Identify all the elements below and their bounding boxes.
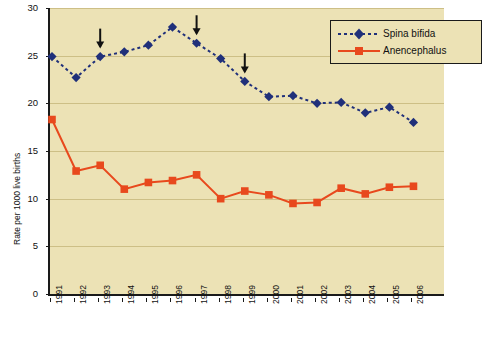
- data-point-marker: [47, 52, 56, 61]
- plot-area: Spina bifida Anencephalus: [48, 8, 444, 296]
- x-tick-mark: [219, 298, 220, 302]
- x-tick-mark: [74, 298, 75, 302]
- x-tick-mark: [98, 298, 99, 302]
- data-point-marker: [144, 41, 153, 50]
- legend-label-spina-bifida: Spina bifida: [383, 28, 435, 39]
- data-point-marker: [410, 182, 418, 190]
- data-point-marker: [361, 108, 370, 117]
- data-point-marker: [288, 91, 297, 100]
- x-tick-mark: [411, 298, 412, 302]
- x-tick-label: 2003: [343, 285, 353, 304]
- x-tick-mark: [339, 298, 340, 302]
- data-point-marker: [313, 199, 321, 207]
- x-tick-label: 1998: [223, 285, 233, 304]
- data-point-marker: [265, 191, 273, 199]
- data-point-marker: [312, 99, 321, 108]
- x-tick-mark: [315, 298, 316, 302]
- data-point-marker: [120, 47, 129, 56]
- data-point-marker: [409, 118, 418, 127]
- x-tick-label: 2002: [319, 285, 329, 304]
- x-tick-mark: [267, 298, 268, 302]
- legend-item-spina-bifida: Spina bifida: [337, 25, 475, 42]
- data-point-marker: [169, 177, 177, 185]
- legend-label-anencephalus: Anencephalus: [383, 45, 446, 56]
- data-point-marker: [289, 200, 297, 208]
- x-tick-label: 2001: [295, 285, 305, 304]
- data-point-marker: [96, 162, 104, 170]
- x-tick-label: 2004: [367, 285, 377, 304]
- x-tick-label: 1993: [102, 285, 112, 304]
- arrow-1993-annotation-arrow: [96, 29, 104, 49]
- y-axis-labels: 051015202530: [0, 0, 46, 338]
- legend: Spina bifida Anencephalus: [330, 20, 482, 64]
- x-tick-label: 1992: [78, 285, 88, 304]
- x-axis-labels: 1991199219931994199519961997199819992000…: [48, 298, 444, 338]
- y-axis-title: Rate per 1000 live births: [12, 45, 22, 245]
- x-tick-mark: [291, 298, 292, 302]
- arrow-1999-annotation-arrow: [241, 53, 249, 73]
- x-tick-mark: [170, 298, 171, 302]
- data-point-marker: [361, 190, 369, 198]
- x-tick-mark: [195, 298, 196, 302]
- x-tick-label: 2006: [415, 285, 425, 304]
- data-point-marker: [120, 185, 128, 193]
- x-tick-mark: [146, 298, 147, 302]
- series-line: [52, 120, 413, 204]
- x-tick-label: 1999: [247, 285, 257, 304]
- data-point-marker: [337, 98, 346, 107]
- x-tick-label: 1991: [54, 285, 64, 304]
- y-tick-label: 30: [0, 3, 38, 13]
- x-tick-label: 1997: [199, 285, 209, 304]
- x-tick-label: 2005: [391, 285, 401, 304]
- x-tick-mark: [122, 298, 123, 302]
- data-point-marker: [217, 195, 225, 203]
- data-point-marker: [48, 116, 56, 124]
- data-point-marker: [241, 187, 249, 195]
- data-point-marker: [386, 183, 394, 191]
- arrow-1997-annotation-arrow: [193, 15, 201, 35]
- x-tick-label: 1996: [174, 285, 184, 304]
- x-tick-label: 1995: [150, 285, 160, 304]
- y-tick-label: 0: [0, 289, 38, 299]
- x-tick-label: 2000: [271, 285, 281, 304]
- data-point-marker: [72, 167, 80, 175]
- x-tick-mark: [387, 298, 388, 302]
- legend-item-anencephalus: Anencephalus: [337, 42, 475, 59]
- legend-symbol-diamond: [337, 27, 381, 41]
- data-point-marker: [96, 52, 105, 61]
- legend-symbol-square: [337, 44, 381, 58]
- x-tick-label: 1994: [126, 285, 136, 304]
- x-tick-mark: [363, 298, 364, 302]
- data-point-marker: [193, 171, 201, 179]
- data-point-marker: [145, 179, 153, 187]
- x-tick-mark: [243, 298, 244, 302]
- x-tick-mark: [50, 298, 51, 302]
- data-point-marker: [337, 184, 345, 192]
